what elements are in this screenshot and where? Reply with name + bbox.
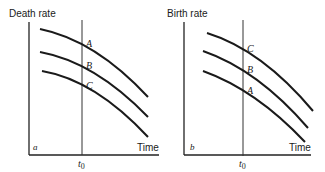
point-label-mid: B [86,60,92,71]
panel-label: a [33,142,38,152]
curve-c [207,33,313,111]
t0-tick-label: t0 [78,158,85,171]
y-axis-label: Birth rate [167,8,208,19]
curve-a [203,71,305,142]
y-axis-label: Death rate [9,8,56,19]
curve-a [40,29,148,97]
panel-label: b [190,142,195,152]
curve-b [40,52,148,117]
panel-a-death-rate: Death rate A B C a Time t0 [9,8,159,171]
figure: Death rate A B C a Time t0 Birth rate C … [0,0,325,172]
t0-tick-label: t0 [239,158,246,171]
point-label-bottom: A [246,85,254,96]
x-axis-label: Time [137,142,159,153]
point-label-top: C [247,43,254,54]
point-label-mid: B [247,64,253,75]
panel-b-birth-rate: Birth rate C B A b Time t0 [167,8,313,171]
point-label-top: A [85,38,93,49]
point-label-bottom: C [86,80,93,91]
x-axis-label: Time [289,142,311,153]
